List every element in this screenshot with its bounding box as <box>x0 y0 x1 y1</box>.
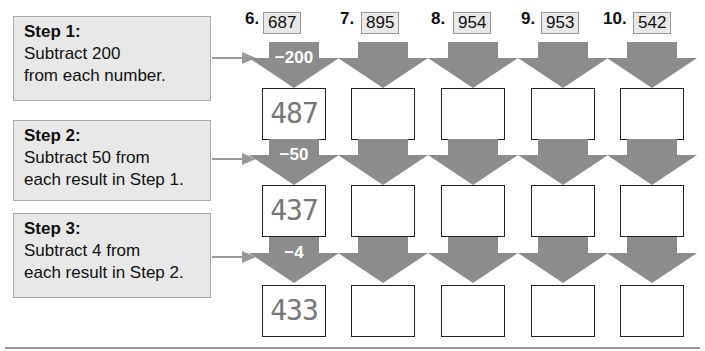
down-arrow-icon <box>338 42 428 88</box>
given-number: 687 <box>263 12 301 34</box>
down-arrow-icon: −50 <box>249 139 339 185</box>
down-arrow-icon <box>428 139 518 185</box>
step-text: Subtract 50 from <box>24 147 200 169</box>
given-number: 953 <box>541 12 579 34</box>
step-1-instruction: Step 1: Subtract 200 from each number. <box>13 16 211 101</box>
problem-number: 6. <box>245 9 259 29</box>
problem-number: 7. <box>340 9 354 29</box>
answer-box-step3[interactable] <box>531 285 595 337</box>
answer-box-step1[interactable] <box>351 88 415 140</box>
down-arrow-icon <box>338 139 428 185</box>
answer-box-step2[interactable] <box>531 185 595 237</box>
given-number: 542 <box>633 12 671 34</box>
answer-box-step3[interactable] <box>441 285 505 337</box>
answer-box-step3[interactable]: 433 <box>262 285 326 337</box>
operation-label: −50 <box>249 145 339 165</box>
down-arrow-icon <box>607 42 697 88</box>
step-text: Subtract 200 <box>24 43 200 65</box>
step-title: Step 2: <box>24 125 200 147</box>
given-number: 895 <box>361 12 399 34</box>
answer-box-step2[interactable]: 437 <box>262 185 326 237</box>
step-title: Step 1: <box>24 21 200 43</box>
answer-box-step1[interactable] <box>441 88 505 140</box>
divider <box>5 347 700 349</box>
step-2-instruction: Step 2: Subtract 50 from each result in … <box>13 120 211 201</box>
down-arrow-icon <box>518 139 608 185</box>
answer-box-step1[interactable]: 487 <box>262 88 326 140</box>
given-number: 954 <box>453 12 491 34</box>
problem-number: 9. <box>521 9 535 29</box>
answer-box-step1[interactable] <box>531 88 595 140</box>
down-arrow-icon: −200 <box>249 42 339 88</box>
down-arrow-icon <box>428 237 518 283</box>
step-3-instruction: Step 3: Subtract 4 from each result in S… <box>13 213 211 298</box>
answer-box-step2[interactable] <box>620 185 684 237</box>
step-text: from each number. <box>24 65 200 87</box>
operation-label: −200 <box>249 48 339 68</box>
step-text: Subtract 4 from <box>24 240 200 262</box>
down-arrow-icon <box>428 42 518 88</box>
answer-box-step2[interactable] <box>441 185 505 237</box>
step-text: each result in Step 1. <box>24 169 200 191</box>
answer-box-step3[interactable] <box>620 285 684 337</box>
answer-box-step2[interactable] <box>351 185 415 237</box>
pointer-arrow-icon <box>212 256 244 258</box>
down-arrow-icon: −4 <box>249 237 339 283</box>
down-arrow-icon <box>518 237 608 283</box>
problem-number: 8. <box>431 9 445 29</box>
down-arrow-icon <box>607 237 697 283</box>
down-arrow-icon <box>338 237 428 283</box>
answer-box-step3[interactable] <box>351 285 415 337</box>
down-arrow-icon <box>607 139 697 185</box>
down-arrow-icon <box>518 42 608 88</box>
answer-box-step1[interactable] <box>620 88 684 140</box>
pointer-arrow-icon <box>212 158 244 160</box>
problem-number: 10. <box>603 9 627 29</box>
step-text: each result in Step 2. <box>24 262 200 284</box>
pointer-arrow-icon <box>212 57 244 59</box>
step-title: Step 3: <box>24 218 200 240</box>
operation-label: −4 <box>249 243 339 263</box>
